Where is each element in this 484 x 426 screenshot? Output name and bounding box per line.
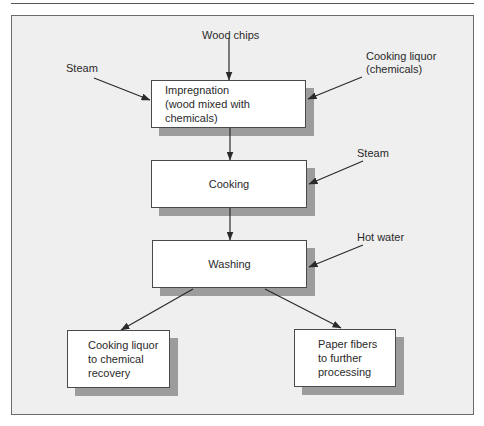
recovery-line-1: Cooking liquor [88,338,169,352]
recovery-line-3: recovery [88,366,169,380]
fibers-line-2: to further [318,351,395,365]
recovery-box: Cooking liquor to chemical recovery [67,330,170,388]
arrow-washing-recovery [121,289,193,330]
cooking-liquor-label-1: Cooking liquor [366,50,436,63]
impregnation-subtitle: (wood mixed with chemicals) [165,97,305,125]
arrow-cooking-liquor [308,77,362,99]
wood-chips-label: Wood chips [202,29,259,42]
recovery-line-2: to chemical [88,352,169,366]
cooking-label: Cooking [209,177,249,191]
cooking-liquor-label-2: (chemicals) [366,63,422,76]
arrow-hot-water [309,245,363,267]
arrow-steam-right [309,161,363,184]
washing-label: Washing [208,257,250,271]
arrow-washing-fibers [265,289,341,328]
steam-left-label: Steam [66,62,98,75]
steam-right-label: Steam [357,147,389,160]
fibers-box: Paper fibers to further processing [294,329,396,387]
washing-box: Washing [152,240,307,288]
fibers-line-3: processing [318,365,395,379]
impregnation-title: Impregnation [165,83,305,97]
arrow-steam-left [94,78,150,100]
impregnation-box: Impregnation (wood mixed with chemicals) [151,80,306,128]
fibers-line-1: Paper fibers [318,337,395,351]
hot-water-label: Hot water [357,231,404,244]
cooking-box: Cooking [151,160,307,208]
